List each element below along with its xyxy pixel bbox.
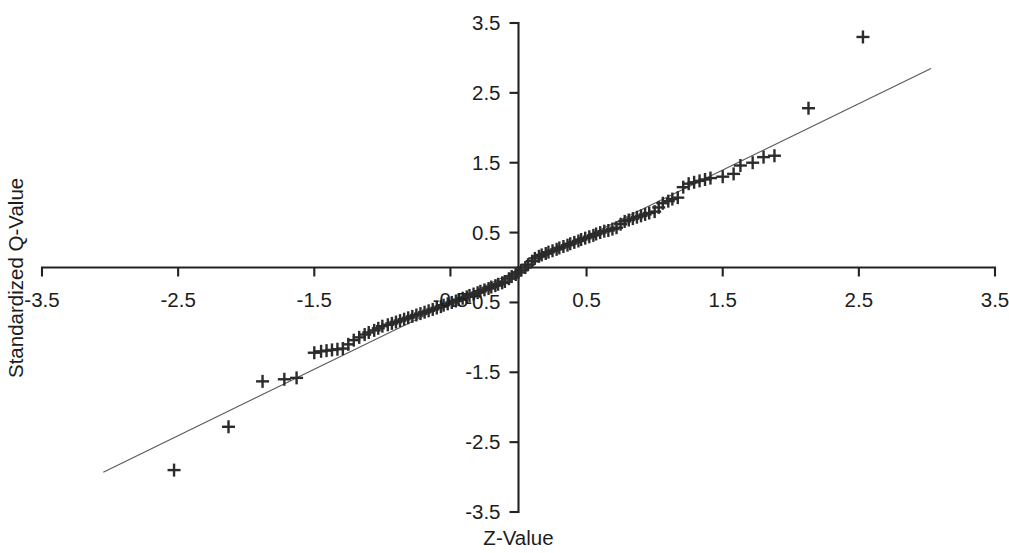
- data-point-plus-marker: [168, 464, 181, 477]
- x-tick-label: 0.5: [572, 288, 601, 312]
- data-point-plus-marker: [856, 30, 869, 43]
- x-axis-title: Z-Value: [483, 526, 553, 550]
- x-tick-label: -0.5: [433, 288, 468, 312]
- data-point-plus-marker: [222, 420, 235, 433]
- data-point-plus-marker: [278, 373, 291, 386]
- data-point-plus-marker: [734, 159, 747, 172]
- x-tick-label: 1.5: [708, 288, 737, 312]
- y-tick-label: 3.5: [472, 11, 501, 35]
- data-point-plus-marker: [802, 102, 815, 115]
- y-tick-label: -2.5: [465, 430, 500, 454]
- x-tick-label: -2.5: [160, 288, 195, 312]
- y-tick-label: 2.5: [472, 81, 501, 105]
- data-point-plus-marker: [768, 149, 781, 162]
- data-point-plus-marker: [256, 375, 269, 388]
- data-point-plus-marker: [308, 346, 321, 359]
- data-point-plus-marker: [290, 371, 303, 384]
- x-tick-label: -1.5: [297, 288, 332, 312]
- qq-plot-figure: -3.5-2.5-1.5-0.50.51.52.53.5 -3.5-2.5-1.…: [0, 0, 1009, 553]
- y-tick-label: 1.5: [472, 151, 501, 175]
- y-tick-label: 0.5: [472, 221, 501, 245]
- y-tick-label: -3.5: [465, 500, 500, 524]
- x-tick-label: 2.5: [845, 288, 874, 312]
- x-tick-label: 3.5: [981, 288, 1009, 312]
- x-tick-label: -3.5: [24, 288, 59, 312]
- y-tick-label: -0.5: [465, 290, 500, 314]
- qq-plot-canvas: [0, 0, 1009, 553]
- data-point-plus-marker: [727, 167, 740, 180]
- y-tick-label: -1.5: [465, 360, 500, 384]
- y-axis-title: Standardized Q-Value: [4, 177, 28, 377]
